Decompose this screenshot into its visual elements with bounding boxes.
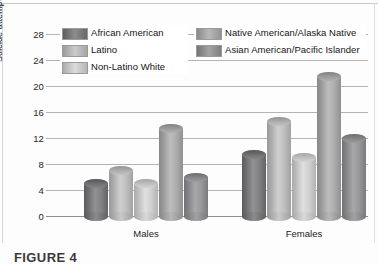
bar-females-0 [242, 154, 266, 216]
y-tick-label-20: 20 [22, 81, 44, 92]
y-tick-label-24: 24 [22, 55, 44, 66]
legend-swatch-3 [196, 28, 222, 40]
legend-label-0: African American [91, 27, 164, 39]
bar-base-ellipse [109, 212, 133, 221]
bar-body [267, 122, 291, 216]
bar-top-ellipse [84, 179, 108, 188]
bar-body [242, 154, 266, 216]
bar-body [342, 138, 366, 216]
y-tick-label-0: 0 [22, 211, 44, 222]
x-axis-labels: Males Females [46, 228, 368, 244]
figure-top-border [0, 3, 378, 4]
bar-top-ellipse [242, 150, 266, 159]
chart-legend: African AmericanLatinoNon-Latino WhiteNa… [62, 27, 362, 79]
bar-base-ellipse [342, 212, 366, 221]
bar-body [292, 158, 316, 217]
x-axis-label-males: Males [84, 228, 208, 239]
legend-label-1: Latino [91, 44, 117, 56]
bar-body [159, 128, 183, 216]
legend-label-2: Non-Latino White [91, 61, 165, 73]
bar-top-ellipse [342, 134, 366, 143]
y-axis-title: Suicide attempt rates (per 100) [0, 0, 4, 62]
legend-label-4: Asian American/Pacific Islander [225, 44, 360, 56]
bar-females-3 [317, 76, 341, 216]
figure-right-border [374, 3, 375, 243]
bar-body [184, 177, 208, 216]
bar-body [109, 171, 133, 217]
bar-males-1 [109, 171, 133, 217]
legend-label-3: Native American/Alaska Native [225, 27, 356, 39]
y-tick-label-12: 12 [22, 133, 44, 144]
figure-caption: FIGURE 4 [14, 250, 77, 265]
bar-base-ellipse [184, 212, 208, 221]
bar-males-4 [184, 177, 208, 216]
legend-swatch-0 [62, 28, 88, 40]
bar-base-ellipse [292, 212, 316, 221]
bar-females-2 [292, 158, 316, 217]
bar-males-3 [159, 128, 183, 216]
y-tick-label-4: 4 [22, 185, 44, 196]
figure-container: Suicide attempt rates (per 100) 04812162… [0, 0, 378, 265]
bar-base-ellipse [159, 212, 183, 221]
bar-females-4 [342, 138, 366, 216]
y-tick-label-28: 28 [22, 29, 44, 40]
legend-swatch-1 [62, 45, 88, 57]
bar-top-ellipse [184, 173, 208, 182]
bar-males-0 [84, 184, 108, 217]
bar-base-ellipse [84, 212, 108, 221]
bar-top-ellipse [134, 179, 158, 188]
y-tick-label-8: 8 [22, 159, 44, 170]
legend-swatch-4 [196, 45, 222, 57]
bar-body [317, 76, 341, 216]
bar-females-1 [267, 122, 291, 216]
bar-top-ellipse [109, 166, 133, 175]
bar-base-ellipse [242, 212, 266, 221]
bar-base-ellipse [317, 212, 341, 221]
bar-base-ellipse [267, 212, 291, 221]
y-tick-label-16: 16 [22, 107, 44, 118]
bar-top-ellipse [159, 124, 183, 133]
x-axis-label-females: Females [242, 228, 366, 239]
legend-swatch-2 [62, 62, 88, 74]
bar-top-ellipse [292, 153, 316, 162]
bar-males-2 [134, 184, 158, 217]
bar-base-ellipse [134, 212, 158, 221]
